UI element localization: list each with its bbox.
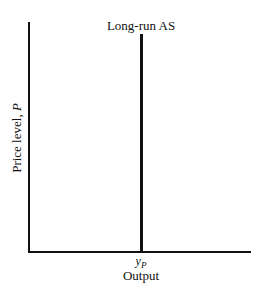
y-axis-label: Price level, P <box>9 78 25 198</box>
y-axis <box>28 22 30 253</box>
long-run-as-label: Long-run AS <box>91 18 191 34</box>
x-axis-label: Output <box>101 268 181 284</box>
y-axis-label-text: Price level, <box>9 111 24 173</box>
long-run-as-line <box>140 34 143 252</box>
y-axis-label-var: P <box>9 103 24 111</box>
